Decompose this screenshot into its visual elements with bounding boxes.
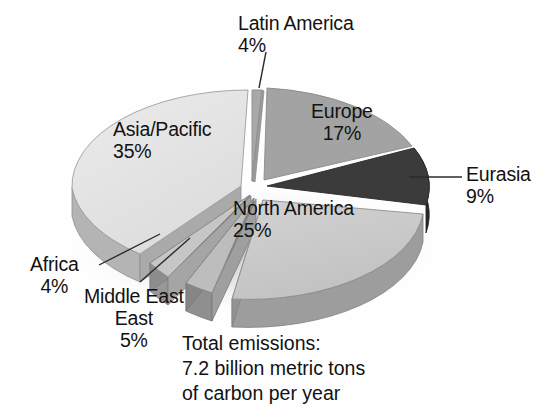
slice-label-north-america-name: North America — [233, 197, 354, 219]
slice-label-africa: Africa 4% — [30, 253, 79, 297]
slice-latin-america[interactable] — [252, 90, 264, 182]
total-emissions-line-2: 7.2 billion metric tons — [182, 356, 365, 381]
pie-chart-figure: Latin America 4% Europe 17% Eurasia 9% A… — [0, 0, 556, 417]
slice-label-europe-name: Europe — [311, 100, 373, 122]
slice-label-middle-east: Middle East East 5% — [84, 285, 184, 351]
slice-label-asia-pacific-name: Asia/Pacific — [113, 118, 211, 140]
total-emissions-note: Total emissions: 7.2 billion metric tons… — [182, 331, 365, 406]
slice-label-middle-east-name2: East — [84, 307, 184, 329]
slice-label-middle-east-name: Middle East — [84, 285, 184, 307]
slice-label-eurasia-name: Eurasia — [466, 163, 531, 185]
slice-label-europe: Europe 17% — [311, 100, 373, 144]
slice-label-north-america-percent: 25% — [233, 219, 354, 241]
slice-label-middle-east-percent: 5% — [84, 329, 184, 351]
slice-label-latin-america: Latin America 4% — [238, 12, 354, 56]
slice-label-north-america: North America 25% — [233, 197, 354, 241]
total-emissions-line-3: of carbon per year — [182, 381, 365, 406]
slice-label-europe-percent: 17% — [311, 122, 373, 144]
slice-label-africa-percent: 4% — [30, 275, 79, 297]
slice-label-eurasia: Eurasia 9% — [466, 163, 531, 207]
slice-label-latin-america-percent: 4% — [238, 34, 354, 56]
slice-label-africa-name: Africa — [30, 253, 79, 275]
slice-label-asia-pacific-percent: 35% — [113, 140, 211, 162]
total-emissions-line-1: Total emissions: — [182, 331, 365, 356]
slice-label-latin-america-name: Latin America — [238, 12, 354, 34]
slice-label-eurasia-percent: 9% — [466, 185, 531, 207]
slice-label-asia-pacific: Asia/Pacific 35% — [113, 118, 211, 162]
leader-line-latin-america — [259, 52, 266, 88]
